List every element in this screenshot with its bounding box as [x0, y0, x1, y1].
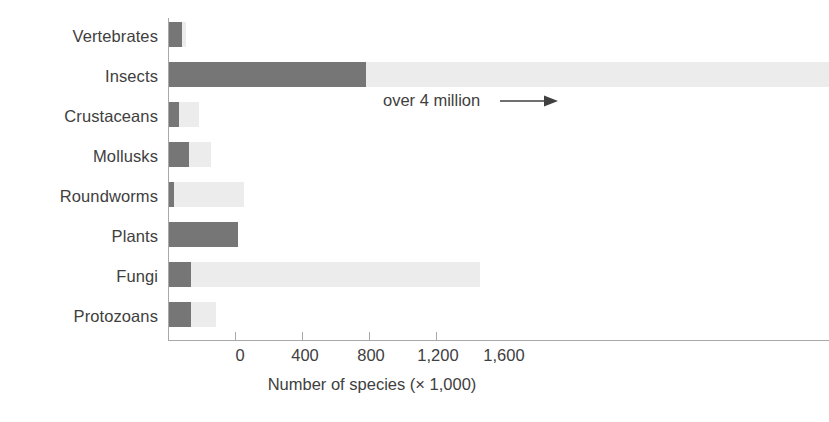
right-arrow-icon	[500, 94, 558, 108]
bar-dark-vertebrates	[168, 22, 182, 47]
x-tick-0	[168, 332, 169, 341]
bar-dark-plants	[168, 222, 238, 247]
bar-light-roundworms	[168, 182, 244, 207]
x-axis-line	[168, 340, 829, 341]
category-label-vertebrates: Vertebrates	[0, 27, 158, 46]
category-label-plants: Plants	[0, 227, 158, 246]
bar-dark-insects	[168, 62, 366, 87]
y-axis-line	[168, 18, 169, 340]
category-label-fungi: Fungi	[0, 267, 158, 286]
species-bar-chart: Vertebrates Insects Crustaceans Mollusks…	[0, 0, 829, 422]
x-tick-label-400: 400	[291, 346, 319, 365]
x-tick-label-0: 0	[235, 346, 244, 365]
category-label-crustaceans: Crustaceans	[0, 107, 158, 126]
x-tick-label-1600: 1,600	[483, 346, 524, 365]
x-tick-400	[235, 332, 236, 341]
bar-dark-protozoans	[168, 302, 191, 327]
x-tick-label-1200: 1,200	[417, 346, 458, 365]
category-label-roundworms: Roundworms	[0, 187, 158, 206]
x-tick-1200	[369, 332, 370, 341]
category-label-insects: Insects	[0, 67, 158, 86]
annotation-over-4-million: over 4 million	[383, 91, 480, 110]
x-tick-800	[302, 332, 303, 341]
x-tick-1600	[436, 332, 437, 341]
bar-light-fungi	[168, 262, 480, 287]
x-tick-label-800: 800	[357, 346, 385, 365]
x-axis-title: Number of species (× 1,000)	[268, 374, 477, 394]
category-label-protozoans: Protozoans	[0, 307, 158, 326]
bar-dark-crustaceans	[168, 102, 179, 127]
bar-dark-fungi	[168, 262, 191, 287]
plot-area: 0 400 800 1,200 1,600 over 4 million Num…	[168, 0, 829, 422]
category-label-mollusks: Mollusks	[0, 147, 158, 166]
bar-dark-mollusks	[168, 142, 189, 167]
